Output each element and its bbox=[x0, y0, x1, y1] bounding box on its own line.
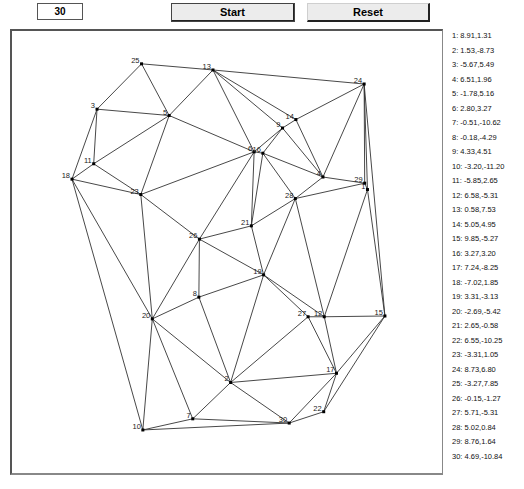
edge bbox=[141, 152, 254, 195]
edge bbox=[94, 116, 169, 164]
nodes: 1234567891011121314151617181920212223242… bbox=[62, 56, 387, 432]
node-3: 3 bbox=[91, 101, 99, 111]
svg-text:8: 8 bbox=[193, 289, 197, 298]
svg-text:3: 3 bbox=[91, 101, 95, 110]
node-4: 4 bbox=[317, 169, 325, 179]
edge bbox=[72, 109, 97, 179]
coordinate-item: 16: 3.27,3.20 bbox=[452, 247, 524, 262]
svg-text:24: 24 bbox=[354, 76, 362, 85]
triangulation-graph: 1234567891011121314151617181920212223242… bbox=[0, 0, 524, 489]
coordinate-item: 10: -3.20,-11.20 bbox=[452, 160, 524, 175]
node-13: 13 bbox=[203, 62, 215, 72]
svg-text:13: 13 bbox=[203, 62, 211, 71]
edge bbox=[251, 199, 295, 226]
edge bbox=[296, 84, 364, 120]
svg-text:21: 21 bbox=[241, 218, 249, 227]
edge bbox=[213, 70, 364, 84]
edge bbox=[152, 239, 199, 319]
edge bbox=[337, 316, 385, 373]
node-12: 12 bbox=[314, 309, 326, 319]
coordinate-item: 28: 5.02,0.84 bbox=[452, 421, 524, 436]
coordinate-item: 25: -3.27,7.85 bbox=[452, 377, 524, 392]
edge bbox=[324, 373, 337, 411]
coordinate-item: 29: 8.76,1.64 bbox=[452, 435, 524, 450]
edge bbox=[199, 239, 200, 297]
edge bbox=[367, 190, 384, 316]
coordinate-item: 1: 8.91,1.31 bbox=[452, 29, 524, 44]
edge bbox=[231, 317, 309, 383]
edge bbox=[295, 199, 324, 317]
edge bbox=[324, 190, 367, 317]
edge bbox=[141, 116, 169, 195]
coordinate-item: 13: 0.58,7.53 bbox=[452, 203, 524, 218]
svg-text:23: 23 bbox=[130, 187, 138, 196]
node-2: 2 bbox=[224, 374, 232, 384]
node-19: 19 bbox=[253, 267, 265, 277]
coordinate-item: 9: 4.33,4.51 bbox=[452, 145, 524, 160]
coordinate-item: 30: 4.69,-10.84 bbox=[452, 450, 524, 465]
node-26: 26 bbox=[189, 231, 201, 241]
edge bbox=[193, 419, 289, 423]
node-22: 22 bbox=[313, 404, 325, 414]
svg-text:7: 7 bbox=[187, 411, 191, 420]
coordinate-item: 20: -2.69,-5.42 bbox=[452, 305, 524, 320]
edge bbox=[263, 128, 283, 153]
coordinate-item: 21: 2.65,-0.58 bbox=[452, 319, 524, 334]
edge bbox=[199, 275, 264, 297]
coordinate-item: 12: 6.58,-5.31 bbox=[452, 189, 524, 204]
node-30: 30 bbox=[279, 415, 291, 425]
coordinate-item: 8: -0.18,-4.29 bbox=[452, 131, 524, 146]
coordinate-item: 15: 9.85,-5.27 bbox=[452, 232, 524, 247]
coordinate-item: 18: -7.02,1.85 bbox=[452, 276, 524, 291]
node-28: 28 bbox=[285, 191, 297, 201]
edge bbox=[72, 164, 94, 179]
coordinate-item: 23: -3.31,1.05 bbox=[452, 348, 524, 363]
coordinate-item: 11: -5.85,2.65 bbox=[452, 174, 524, 189]
node-24: 24 bbox=[354, 76, 366, 86]
edge bbox=[231, 373, 337, 382]
svg-text:5: 5 bbox=[163, 108, 167, 117]
svg-text:26: 26 bbox=[189, 231, 197, 240]
svg-text:27: 27 bbox=[298, 309, 306, 318]
edge bbox=[213, 70, 283, 128]
node-16: 16 bbox=[253, 145, 265, 155]
svg-text:6: 6 bbox=[248, 144, 252, 153]
coordinate-item: 2: 1.53,-8.73 bbox=[452, 44, 524, 59]
node-5: 5 bbox=[163, 108, 171, 118]
node-23: 23 bbox=[130, 187, 142, 197]
coordinate-item: 3: -5.67,5.49 bbox=[452, 58, 524, 73]
edge bbox=[324, 316, 385, 412]
edge bbox=[152, 319, 192, 419]
edge bbox=[141, 195, 153, 319]
edge bbox=[143, 423, 289, 430]
node-10: 10 bbox=[132, 422, 144, 432]
edge bbox=[364, 84, 385, 316]
coordinate-item: 6: 2.80,3.27 bbox=[452, 102, 524, 117]
edge bbox=[152, 297, 199, 319]
edge bbox=[72, 179, 152, 319]
edge bbox=[193, 382, 231, 418]
coordinate-item: 5: -1.78,5.16 bbox=[452, 87, 524, 102]
coordinate-item: 14: 5.05,4.95 bbox=[452, 218, 524, 233]
svg-text:11: 11 bbox=[84, 156, 92, 165]
edge bbox=[169, 70, 213, 116]
edge bbox=[169, 116, 254, 152]
edge bbox=[97, 64, 142, 109]
coordinate-item: 7: -0.51,-10.62 bbox=[452, 116, 524, 131]
coordinate-list: 1: 8.91,1.312: 1.53,-8.733: -5.67,5.494:… bbox=[452, 29, 524, 464]
node-14: 14 bbox=[286, 112, 298, 122]
svg-text:18: 18 bbox=[62, 171, 70, 180]
coordinate-item: 17: 7.24,-8.25 bbox=[452, 261, 524, 276]
svg-text:20: 20 bbox=[142, 311, 150, 320]
coordinate-item: 19: 3.31,-3.13 bbox=[452, 290, 524, 305]
svg-text:25: 25 bbox=[131, 56, 139, 65]
edge bbox=[283, 120, 296, 128]
svg-text:29: 29 bbox=[354, 175, 362, 184]
node-27: 27 bbox=[298, 309, 310, 319]
edge bbox=[323, 84, 364, 177]
svg-text:30: 30 bbox=[279, 415, 287, 424]
svg-text:16: 16 bbox=[253, 145, 261, 154]
edge bbox=[143, 319, 152, 430]
svg-text:14: 14 bbox=[286, 112, 294, 121]
node-25: 25 bbox=[131, 56, 143, 65]
